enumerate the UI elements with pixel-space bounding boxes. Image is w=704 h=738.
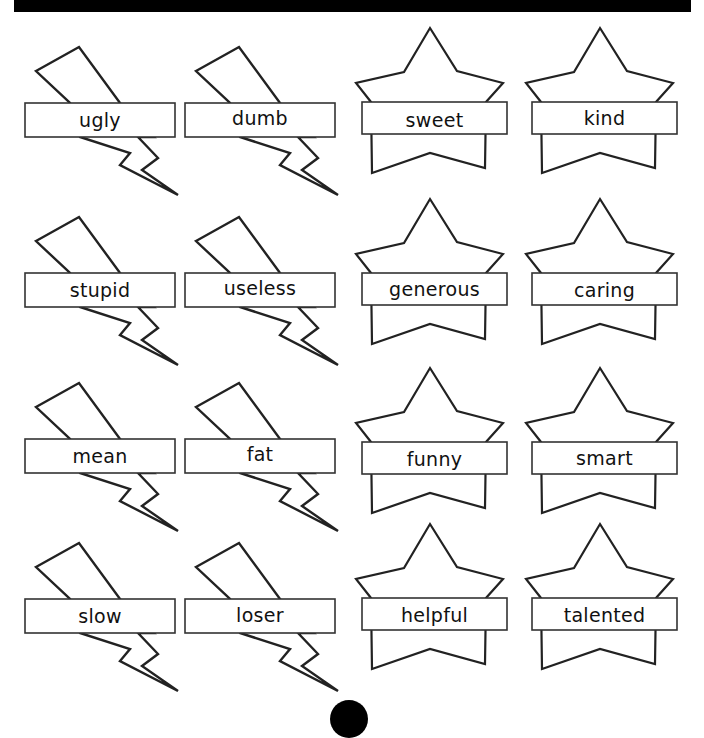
star-icon	[356, 199, 507, 344]
word-label-positive: smart	[532, 442, 677, 473]
word-label-positive: sweet	[362, 104, 507, 135]
word-label-positive: helpful	[362, 599, 507, 630]
star-icon	[356, 524, 507, 669]
word-label-negative: slow	[25, 600, 175, 631]
star-icon	[526, 524, 677, 669]
word-label-negative: ugly	[25, 104, 175, 135]
word-label-positive: funny	[362, 443, 507, 474]
word-label-negative: dumb	[185, 102, 335, 133]
word-label-positive: generous	[362, 273, 507, 304]
word-label-negative: stupid	[25, 274, 175, 305]
word-label-negative: mean	[25, 440, 175, 471]
word-label-positive: talented	[532, 599, 677, 630]
word-label-negative: useless	[185, 272, 335, 303]
star-icon	[356, 28, 507, 173]
word-label-negative: loser	[185, 599, 335, 630]
star-icon	[526, 368, 677, 513]
word-label-positive: caring	[532, 274, 677, 305]
star-icon	[526, 199, 677, 344]
word-label-positive: kind	[532, 102, 677, 133]
word-label-negative: fat	[185, 438, 335, 469]
page-number-circle	[330, 700, 368, 738]
star-icon	[526, 28, 677, 173]
star-icon	[356, 368, 507, 513]
